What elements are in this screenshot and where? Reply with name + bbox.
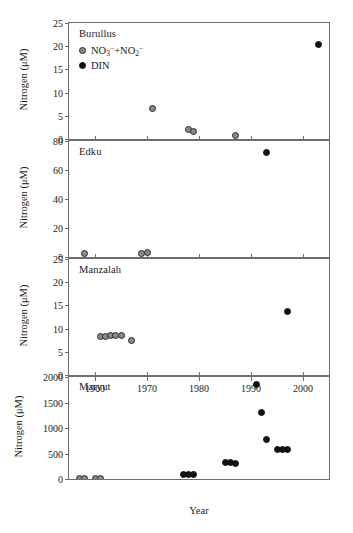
y-tick-mark (65, 454, 69, 455)
y-tick-mark (65, 23, 69, 24)
y-tick-mark (65, 93, 69, 94)
y-tick-label: 40 (53, 194, 63, 205)
y-tick-mark (65, 259, 69, 260)
y-tick-label: 20 (53, 41, 63, 52)
y-tick-label: 15 (53, 300, 63, 311)
y-tick-mark (65, 46, 69, 47)
y-tick-mark (65, 69, 69, 70)
data-point-din (232, 460, 239, 467)
data-point-din (263, 149, 270, 156)
x-tick-label: 1970 (137, 383, 157, 394)
x-tick-mark (147, 377, 148, 381)
x-tick-mark (251, 254, 252, 258)
data-point-no3no2 (81, 475, 88, 479)
data-point-din (284, 308, 291, 315)
y-tick-label: 1000 (43, 423, 63, 434)
y-tick-mark (65, 428, 69, 429)
plot-area-burullus (69, 23, 329, 139)
y-tick-mark (65, 305, 69, 306)
data-point-no3no2 (97, 475, 104, 479)
data-point-no3no2 (144, 249, 151, 256)
y-tick-label: 10 (53, 87, 63, 98)
data-point-din (315, 41, 322, 48)
panel-burullus: Burullus NO3−+NO2− DIN 0510152025 (68, 22, 330, 140)
x-tick-mark (95, 254, 96, 258)
x-tick-mark (251, 372, 252, 376)
data-point-din (263, 436, 270, 443)
y-tick-mark (65, 479, 69, 480)
y-tick-label: 80 (53, 136, 63, 147)
y-axis-label-burullus: Nitrogen (μM) (18, 20, 29, 140)
y-axis-label-manzalah: Nitrogen (μM) (18, 256, 29, 376)
y-axis-label-maryut: Nitrogen (μM) (13, 367, 24, 487)
y-tick-label: 5 (58, 110, 63, 121)
data-point-din (258, 409, 265, 416)
y-tick-label: 0 (58, 474, 63, 485)
panel-edku: Edku 020406080 (68, 140, 330, 258)
x-tick-mark (95, 136, 96, 140)
y-tick-mark (65, 329, 69, 330)
x-tick-mark (147, 136, 148, 140)
y-tick-label: 10 (53, 323, 63, 334)
x-tick-mark (251, 136, 252, 140)
y-tick-label: 60 (53, 165, 63, 176)
x-tick-label: 1980 (189, 383, 209, 394)
y-tick-label: 2000 (43, 372, 63, 383)
y-tick-label: 20 (53, 223, 63, 234)
data-point-no3no2 (81, 250, 88, 257)
x-tick-mark (95, 377, 96, 381)
y-tick-mark (65, 403, 69, 404)
y-tick-mark (65, 199, 69, 200)
x-tick-label: 1960 (85, 383, 105, 394)
y-tick-mark (65, 377, 69, 378)
y-tick-mark (65, 352, 69, 353)
x-tick-mark (303, 377, 304, 381)
y-tick-label: 5 (58, 346, 63, 357)
plot-area-edku (69, 141, 329, 257)
data-point-no3no2 (232, 132, 239, 139)
panel-manzalah: Manzalah 0510152025 (68, 258, 330, 376)
y-tick-mark (65, 282, 69, 283)
x-tick-mark (303, 372, 304, 376)
x-tick-mark (199, 377, 200, 381)
x-axis-label: Year (68, 505, 330, 516)
x-tick-mark (303, 254, 304, 258)
y-axis-label-edku: Nitrogen (μM) (18, 138, 29, 258)
x-tick-mark (199, 254, 200, 258)
y-tick-label: 25 (53, 18, 63, 29)
nitrogen-lagoons-figure: Nitrogen (μM) Nitrogen (μM) Nitrogen (μM… (0, 0, 353, 533)
x-tick-label: 1990 (241, 383, 261, 394)
y-tick-mark (65, 170, 69, 171)
data-point-din (190, 471, 197, 478)
y-tick-label: 20 (53, 277, 63, 288)
y-tick-label: 15 (53, 64, 63, 75)
data-point-no3no2 (128, 337, 135, 344)
data-point-no3no2 (190, 128, 197, 135)
x-tick-mark (147, 372, 148, 376)
x-tick-mark (199, 372, 200, 376)
y-tick-label: 25 (53, 254, 63, 265)
plot-area-manzalah (69, 259, 329, 375)
y-tick-label: 1500 (43, 397, 63, 408)
panel-maryut: Maryut 050010001500200019601970198019902… (68, 376, 330, 480)
y-tick-mark (65, 141, 69, 142)
y-tick-mark (65, 116, 69, 117)
x-tick-mark (199, 136, 200, 140)
data-point-din (284, 446, 291, 453)
y-tick-mark (65, 228, 69, 229)
x-tick-mark (303, 136, 304, 140)
y-tick-label: 500 (48, 448, 63, 459)
data-point-no3no2 (118, 332, 125, 339)
data-point-no3no2 (149, 105, 156, 112)
x-tick-mark (251, 377, 252, 381)
x-tick-mark (95, 372, 96, 376)
x-tick-label: 2000 (293, 383, 313, 394)
